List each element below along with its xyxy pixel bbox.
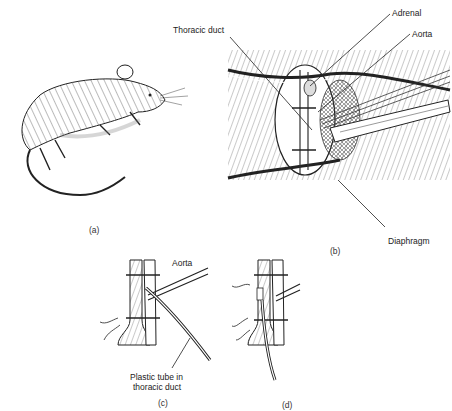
panel-label-b: (b) xyxy=(330,246,340,256)
rat-illustration xyxy=(22,65,188,195)
label-thoracic-duct: Thoracic duct xyxy=(173,26,224,35)
panel-label-a: (a) xyxy=(89,225,99,235)
label-diaphragm: Diaphragm xyxy=(388,237,430,246)
panel-label-d: (d) xyxy=(282,400,292,410)
label-aorta-b: Aorta xyxy=(412,30,432,39)
label-plastic-tube-line2: thoracic duct xyxy=(133,383,181,392)
cannulation-illustration-c xyxy=(100,260,210,368)
label-adrenal: Adrenal xyxy=(392,9,421,18)
figure-illustrations xyxy=(0,0,452,411)
label-plastic-tube-line1: Plastic tube in xyxy=(130,373,183,382)
cannulation-illustration-d xyxy=(232,260,300,380)
surgical-exposure-illustration xyxy=(228,50,450,180)
panel-label-c: (c) xyxy=(158,398,168,408)
label-aorta-c: Aorta xyxy=(172,259,192,268)
